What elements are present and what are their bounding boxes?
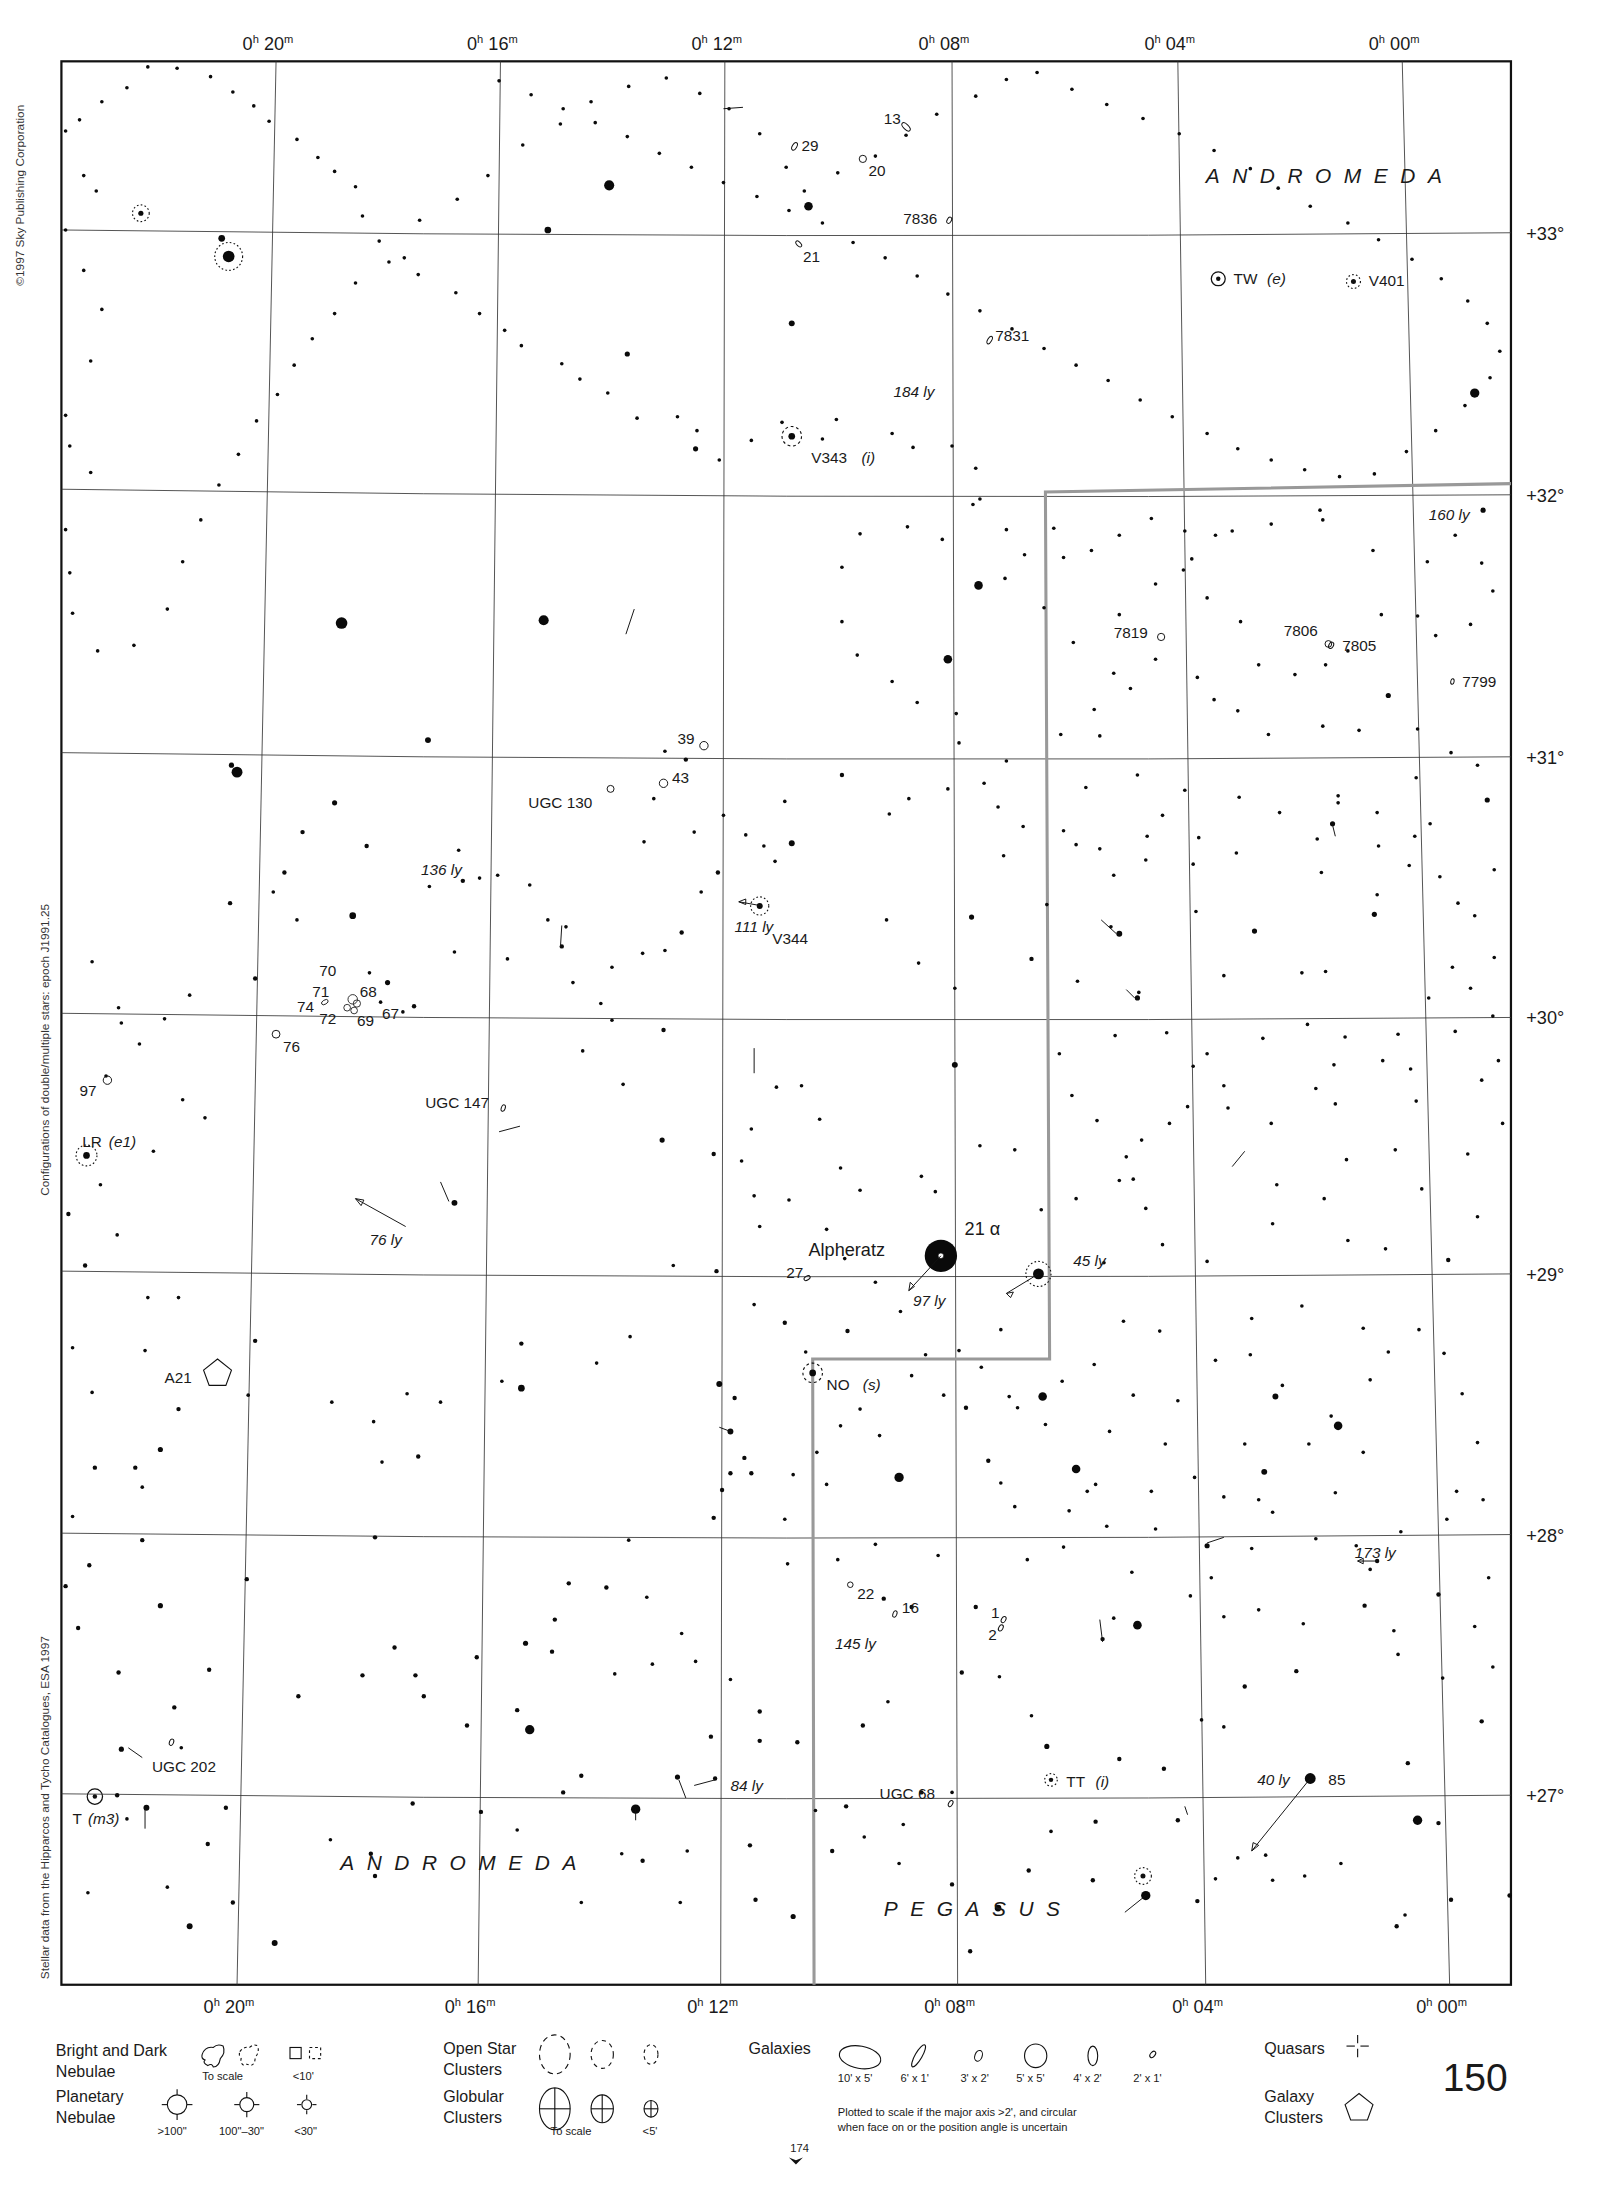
legend-planetary-size-1: >100" bbox=[158, 2125, 187, 2137]
star bbox=[915, 701, 919, 705]
star bbox=[940, 538, 944, 542]
ra-grid-line bbox=[952, 61, 958, 1984]
star bbox=[93, 1465, 97, 1469]
star bbox=[642, 840, 646, 844]
galaxy-20 bbox=[859, 155, 866, 162]
star bbox=[1362, 1603, 1366, 1607]
star bbox=[1154, 1527, 1158, 1531]
star bbox=[1492, 956, 1496, 960]
dec-grid-line bbox=[61, 1794, 1511, 1799]
star bbox=[1117, 1757, 1121, 1761]
star bbox=[228, 901, 232, 905]
star bbox=[116, 1670, 120, 1674]
star bbox=[783, 1517, 787, 1521]
ra-label: 0h 12m bbox=[687, 1996, 738, 2017]
star bbox=[1129, 687, 1133, 691]
legend-galaxy-size-1: 10' x 5' bbox=[838, 2072, 873, 2084]
star bbox=[140, 1485, 144, 1489]
star bbox=[1214, 1877, 1218, 1881]
star bbox=[1427, 996, 1431, 1000]
star bbox=[1191, 862, 1195, 866]
star bbox=[1338, 475, 1342, 479]
star bbox=[627, 85, 631, 89]
star bbox=[1380, 613, 1384, 617]
star bbox=[1336, 794, 1340, 798]
star bbox=[425, 737, 431, 743]
object-label: 69 bbox=[357, 1012, 374, 1029]
star bbox=[146, 1296, 150, 1300]
star bbox=[804, 202, 813, 211]
star bbox=[658, 152, 662, 156]
dark-nebula-icon bbox=[239, 2045, 258, 2066]
star bbox=[1007, 1395, 1011, 1399]
ra-label: 0h 04m bbox=[1144, 33, 1195, 54]
dec-label: +30° bbox=[1526, 1008, 1564, 1028]
object-label: TW bbox=[1234, 270, 1258, 287]
star bbox=[917, 961, 921, 965]
next-page-ref[interactable]: 174 bbox=[790, 2142, 809, 2154]
legend-galaxy-note-1: Plotted to scale if the major axis >2', … bbox=[838, 2106, 1077, 2118]
star bbox=[1373, 472, 1377, 476]
star bbox=[1315, 837, 1319, 841]
star bbox=[1235, 851, 1239, 855]
star bbox=[1094, 1483, 1098, 1487]
star bbox=[579, 1773, 583, 1777]
star bbox=[1194, 910, 1198, 914]
star bbox=[1470, 388, 1479, 397]
star bbox=[890, 432, 894, 436]
galaxy-29 bbox=[791, 142, 799, 151]
star bbox=[1368, 1568, 1372, 1572]
galaxy-ugc130 bbox=[607, 785, 614, 792]
star bbox=[1281, 1384, 1285, 1388]
star bbox=[946, 787, 950, 791]
star bbox=[821, 221, 825, 225]
star bbox=[748, 1843, 752, 1847]
legend-galaxy-size-6: 2' x 1' bbox=[1133, 2072, 1161, 2084]
object-label: 85 bbox=[1328, 1771, 1345, 1788]
star bbox=[1222, 1084, 1226, 1088]
star bbox=[1243, 1684, 1247, 1688]
ra-grid-line bbox=[721, 61, 725, 1984]
star bbox=[1131, 1177, 1135, 1181]
star bbox=[1301, 1622, 1305, 1626]
star bbox=[1200, 1718, 1204, 1722]
star bbox=[1371, 549, 1375, 553]
ra-label: 0h 16m bbox=[445, 1996, 496, 2017]
star bbox=[83, 1152, 90, 1159]
star bbox=[1322, 1197, 1326, 1201]
star bbox=[528, 883, 532, 887]
star bbox=[418, 218, 422, 222]
object-label: V343 bbox=[811, 449, 847, 466]
star bbox=[224, 1806, 228, 1810]
star bbox=[387, 260, 391, 264]
star bbox=[676, 415, 680, 419]
star bbox=[679, 930, 683, 934]
star bbox=[1005, 78, 1009, 82]
chevron-down-icon[interactable] bbox=[789, 2158, 803, 2165]
legend-globular-small: <5' bbox=[643, 2125, 658, 2137]
star bbox=[1414, 1099, 1418, 1103]
galaxy-ugc68 bbox=[947, 1800, 954, 1808]
star bbox=[1252, 928, 1257, 933]
star bbox=[218, 235, 225, 242]
ra-label: 0h 20m bbox=[243, 33, 294, 54]
star bbox=[1106, 379, 1110, 383]
object-label: 76 bbox=[283, 1038, 300, 1055]
star bbox=[1067, 1509, 1071, 1513]
star bbox=[694, 1660, 698, 1664]
star bbox=[1116, 931, 1122, 937]
star bbox=[523, 1641, 528, 1646]
star bbox=[172, 1705, 176, 1709]
star bbox=[206, 1842, 210, 1846]
star bbox=[1321, 724, 1325, 728]
star bbox=[503, 329, 507, 333]
star bbox=[115, 1793, 119, 1797]
star bbox=[1446, 1258, 1450, 1262]
legend-open-clusters-title-1: Open Star bbox=[443, 2039, 517, 2057]
star bbox=[752, 1303, 756, 1307]
star bbox=[1507, 1893, 1511, 1897]
constellation-name: ANDROMEDA bbox=[1204, 164, 1455, 187]
star bbox=[1214, 533, 1218, 537]
object-label: (i) bbox=[861, 449, 875, 466]
star bbox=[64, 228, 68, 232]
